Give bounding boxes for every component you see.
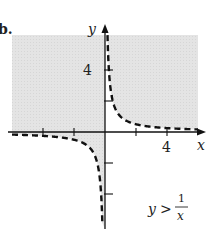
x-axis-arrow-icon [197, 129, 206, 136]
curve-branch-negative [12, 135, 102, 224]
inequality-lhs: y [147, 201, 157, 217]
inequality-label: y > 1 x [147, 192, 188, 223]
fraction-numerator: 1 [178, 192, 185, 205]
x-axis-label: x [197, 137, 205, 153]
y-tick-label: 4 [83, 62, 92, 78]
y-axis-arrow-icon [102, 24, 109, 33]
y-axis-label: y [87, 21, 97, 37]
x-tick-label: 4 [162, 139, 171, 155]
graph: b. x y 44 y > 1 x [0, 0, 209, 229]
fraction-denominator: x [177, 209, 184, 223]
problem-label: b. [0, 21, 13, 37]
inequality-operator: > [160, 201, 172, 217]
